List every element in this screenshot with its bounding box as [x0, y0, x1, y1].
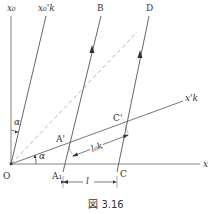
point-c-prime-label: C' — [113, 114, 122, 123]
worldline-d — [117, 16, 149, 172]
dim-l0k-arrow-right-icon — [123, 135, 129, 139]
x-axis-label: x — [203, 160, 208, 169]
xk-axis — [11, 101, 183, 164]
x0-axis-label: x₀ — [7, 4, 16, 13]
dim-l-arrow-left-icon — [63, 180, 68, 184]
point-a1-label: A₁ — [52, 172, 62, 181]
dim-l0k-arrow-left-icon — [72, 153, 78, 157]
alpha-bottom-label: α — [39, 152, 45, 161]
xk-axis-label: x'k — [185, 94, 198, 103]
spacetime-diagram — [0, 0, 212, 214]
point-c-label: C — [120, 170, 127, 179]
x0k-axis-label: x₀'k — [38, 4, 55, 13]
dim-l-label: l — [86, 177, 89, 186]
point-a-prime-label: A' — [56, 135, 65, 144]
origin-point — [10, 163, 13, 166]
light-line — [11, 32, 137, 164]
point-d-label: D — [146, 4, 153, 13]
point-b-label: B — [97, 4, 104, 13]
alpha-marker-top-icon — [15, 131, 18, 134]
figure-caption: 図 3.16 — [0, 196, 212, 211]
alpha-top-label: α — [14, 118, 20, 127]
origin-label: O — [3, 172, 10, 181]
x0k-axis — [11, 16, 46, 164]
